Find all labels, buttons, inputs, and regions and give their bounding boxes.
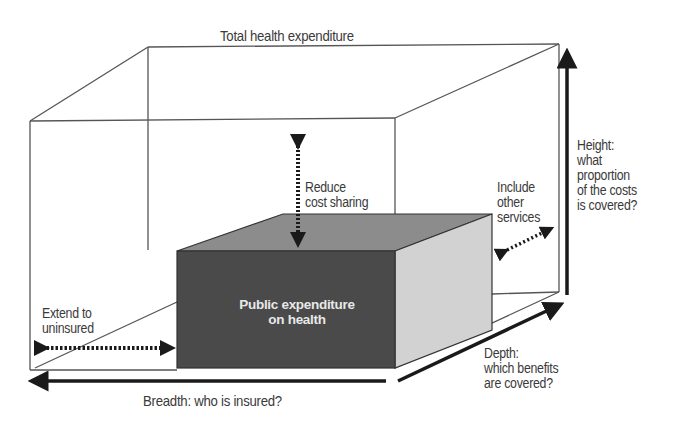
label-line: Include: [497, 180, 540, 195]
label-line: of the costs: [577, 183, 637, 198]
label-line: which benefits: [484, 361, 558, 376]
label-line: Height:: [577, 138, 637, 153]
reduce-cost-sharing-label: Reduce cost sharing: [305, 180, 368, 210]
label-line: Reduce: [305, 180, 368, 195]
label-line: on health: [212, 312, 382, 327]
height-axis-label: Height: what proportion of the costs is …: [577, 138, 637, 213]
label-line: Public expenditure: [212, 297, 382, 312]
depth-axis-label: Depth: which benefits are covered?: [484, 346, 558, 391]
breadth-axis-label: Breadth: who is insured?: [143, 393, 282, 408]
label-line: cost sharing: [305, 195, 368, 210]
label-line: is covered?: [577, 198, 637, 213]
label-line: other: [497, 195, 540, 210]
include-other-services-arrow: [503, 230, 548, 252]
label-line: services: [497, 210, 540, 225]
label-line: proportion: [577, 168, 637, 183]
label-line: Depth:: [484, 346, 558, 361]
extend-to-uninsured-label: Extend to uninsured: [42, 306, 94, 336]
label-line: are covered?: [484, 376, 558, 391]
public-expenditure-label: Public expenditure on health: [212, 297, 382, 327]
diagram-title: Total health expenditure: [220, 28, 354, 43]
label-line: uninsured: [42, 321, 94, 336]
label-line: Extend to: [42, 306, 94, 321]
label-line: what: [577, 153, 637, 168]
include-other-services-label: Include other services: [497, 180, 540, 225]
health-coverage-cube-diagram: Total health expenditure Reduce cost sha…: [0, 0, 677, 428]
cube-drawing: [0, 0, 677, 428]
inner-box-public-expenditure: [177, 214, 492, 368]
